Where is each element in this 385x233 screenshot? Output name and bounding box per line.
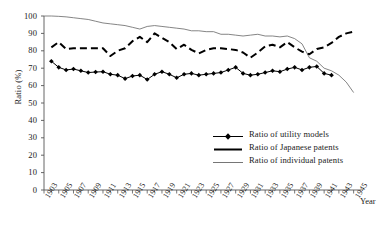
series-marker <box>263 70 268 75</box>
series-marker <box>138 73 143 78</box>
series-line-2 <box>44 16 354 93</box>
series-marker <box>71 67 76 72</box>
series-line-1 <box>51 32 353 58</box>
series-marker <box>167 72 172 77</box>
series-marker <box>174 75 179 80</box>
series-marker <box>219 70 224 75</box>
legend-label-individual-patents: Ratio of individual patents <box>249 155 343 165</box>
legend-item-utility-models: Ratio of utility models <box>213 127 343 140</box>
y-tick-label: 50 <box>11 98 37 108</box>
series-marker <box>79 69 84 74</box>
series-marker <box>211 71 216 76</box>
series-marker <box>255 72 260 77</box>
y-tick-label: 90 <box>11 28 37 38</box>
series-marker <box>160 69 165 74</box>
chart-legend: Ratio of utility models Ratio of Japanes… <box>213 127 343 166</box>
series-marker <box>197 73 202 78</box>
series-marker <box>270 69 275 74</box>
series-marker <box>123 76 128 81</box>
series-marker <box>130 74 135 79</box>
series-marker <box>300 68 305 73</box>
y-tick-label: 60 <box>11 80 37 90</box>
legend-key-diamond-line <box>213 128 243 139</box>
series-marker <box>108 72 113 77</box>
legend-label-utility-models: Ratio of utility models <box>249 129 329 139</box>
series-marker <box>182 72 187 77</box>
series-line-0 <box>51 61 331 79</box>
y-tick-label: 0 <box>11 185 37 195</box>
series-marker <box>329 73 334 78</box>
legend-key-thin-line <box>213 154 243 165</box>
legend-item-japanese-patents: Ratio of Japanese patents <box>213 140 343 153</box>
series-marker <box>115 73 120 78</box>
series-marker <box>307 65 312 70</box>
series-marker <box>226 68 231 73</box>
series-marker <box>285 67 290 72</box>
legend-key-thick-dashed-line <box>213 141 243 152</box>
y-tick-label: 100 <box>11 11 37 21</box>
x-axis-title: Year <box>360 196 376 206</box>
series-marker <box>278 69 283 74</box>
y-tick-label: 30 <box>11 132 37 142</box>
y-tick-label: 80 <box>11 45 37 55</box>
series-marker <box>101 69 106 74</box>
series-marker <box>292 65 297 70</box>
legend-item-individual-patents: Ratio of individual patents <box>213 153 343 166</box>
y-tick-label: 40 <box>11 115 37 125</box>
series-marker <box>189 71 194 76</box>
data-series <box>44 16 354 93</box>
y-tick-label: 20 <box>11 150 37 160</box>
axes <box>41 16 361 194</box>
series-marker <box>86 70 91 75</box>
series-marker <box>248 73 253 78</box>
series-marker <box>64 68 69 73</box>
series-marker <box>93 70 98 75</box>
y-tick-label: 70 <box>11 63 37 73</box>
chart-container: Ratio (%) 0102030405060708090100 1903190… <box>0 0 385 233</box>
y-tick-label: 10 <box>11 167 37 177</box>
series-marker <box>204 72 209 77</box>
legend-label-japanese-patents: Ratio of Japanese patents <box>249 142 339 152</box>
